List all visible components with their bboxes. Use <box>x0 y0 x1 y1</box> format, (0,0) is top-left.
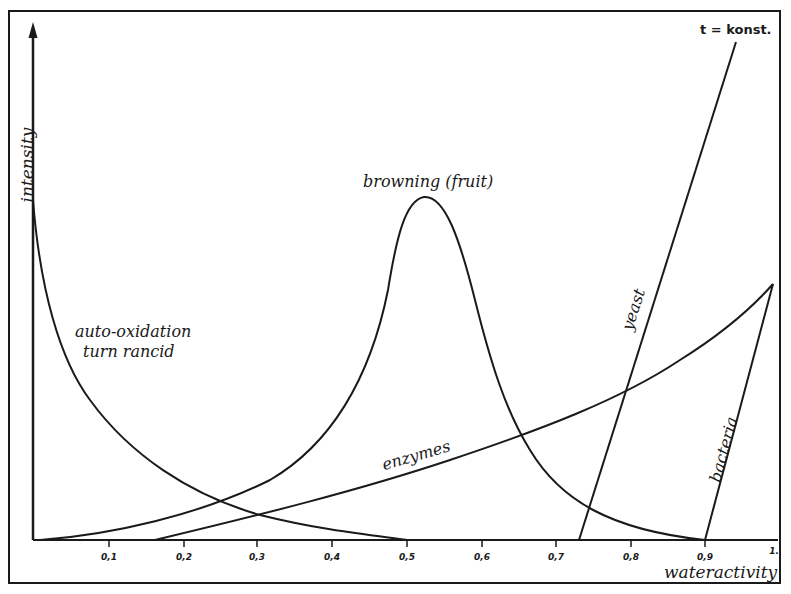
x-axis-label: wateractivity <box>664 562 777 582</box>
x-tick-label: 0,9 <box>697 552 713 562</box>
browning-curve <box>40 197 705 540</box>
y-axis-arrow-icon <box>29 22 38 38</box>
y-axis-label: intensity <box>17 128 37 203</box>
chart-title: t = konst. <box>700 22 772 37</box>
enzymes-curve <box>155 284 773 540</box>
x-axis-ticks <box>109 541 705 547</box>
x-tick-label: 0,1 <box>101 552 117 562</box>
x-tick-label: 0,6 <box>474 552 490 562</box>
auto-oxidation-label-line1: auto-oxidation <box>75 322 191 341</box>
x-tick-label: 0,8 <box>623 552 639 562</box>
bacteria-line <box>705 284 773 540</box>
x-tick-label: 1. <box>769 546 779 556</box>
x-tick-label: 0,7 <box>548 552 564 562</box>
x-tick-label: 0,2 <box>176 552 192 562</box>
browning-label: browning (fruit) <box>363 172 493 191</box>
auto-oxidation-curve <box>33 200 407 540</box>
x-tick-label: 0,4 <box>324 552 340 562</box>
chart-plot-area <box>0 0 791 594</box>
x-tick-label: 0,5 <box>399 552 415 562</box>
auto-oxidation-label-line2: turn rancid <box>83 342 175 361</box>
x-tick-label: 0,3 <box>249 552 265 562</box>
